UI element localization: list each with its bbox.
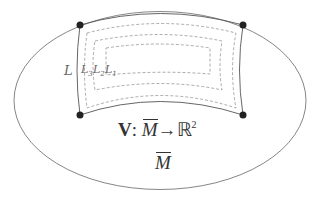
corner-point-top-right [240, 22, 247, 29]
formula-vector: V [118, 119, 132, 140]
formula-domain: M [142, 120, 158, 139]
label-L1: L1 [105, 64, 117, 78]
label-L: L [64, 64, 73, 77]
formula-exponent: 2 [192, 119, 197, 130]
formula-arrow: → [158, 119, 177, 140]
label-L2: L2 [93, 64, 105, 78]
outer-region-label: M [155, 153, 171, 172]
corner-point-bottom-left [77, 112, 84, 119]
corner-point-top-left [77, 22, 84, 29]
nested-curve-L2 [93, 35, 222, 91]
corner-point-bottom-right [240, 112, 247, 119]
nested-curve-L1 [106, 44, 210, 75]
label-L3: L3 [81, 64, 93, 78]
formula-colon: : [132, 119, 137, 140]
map-formula: V: M→ℝ2 [118, 120, 197, 139]
formula-codomain: ℝ [177, 119, 192, 140]
